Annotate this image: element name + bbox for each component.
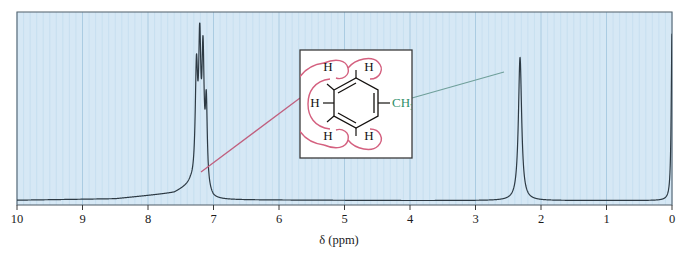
x-axis-ticks: [17, 205, 672, 210]
aromatic-h-label: H: [364, 128, 373, 143]
x-axis-tick-label: 1: [603, 212, 609, 226]
x-axis-tick-label: 2: [538, 212, 544, 226]
x-axis-tick-label: 9: [79, 212, 85, 226]
x-axis-tick-label: 7: [210, 212, 216, 226]
x-axis-tick-label: 6: [276, 212, 282, 226]
spectrum-canvas: H H H H H CH 3 109876543210 δ (ppm): [0, 0, 678, 257]
aromatic-h-label: H: [323, 59, 332, 74]
x-axis-tick-label: 4: [407, 212, 414, 226]
aromatic-h-label: H: [364, 59, 373, 74]
x-axis-title: δ (ppm): [319, 233, 359, 247]
x-axis-tick-labels: 109876543210: [11, 212, 675, 226]
toluene-structure-inset: H H H H H CH 3: [292, 50, 415, 158]
x-axis-tick-label: 5: [341, 212, 347, 226]
x-axis-tick-label: 0: [669, 212, 675, 226]
aromatic-h-label: H: [323, 128, 332, 143]
x-axis-tick-label: 8: [145, 212, 151, 226]
x-axis-tick-label: 3: [472, 212, 478, 226]
x-axis-tick-label: 10: [11, 212, 24, 226]
aromatic-h-label: H: [310, 95, 319, 110]
methyl-group-label: CH: [392, 95, 410, 110]
nmr-spectrum-figure: H H H H H CH 3 109876543210 δ (ppm): [0, 0, 678, 257]
